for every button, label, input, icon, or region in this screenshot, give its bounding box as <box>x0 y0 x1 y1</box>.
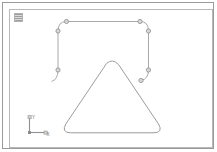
rounded-triangle-spline[interactable] <box>64 61 160 133</box>
window-outer-frame: Y X <box>2 2 214 149</box>
axis-origin-marker <box>28 131 31 134</box>
x-axis-label: X <box>47 132 50 137</box>
y-axis-label: Y <box>32 115 35 120</box>
spline-vertex-marker[interactable] <box>139 78 143 82</box>
application-window: Y X <box>0 0 217 152</box>
spline-vertex-marker[interactable] <box>146 68 150 72</box>
spline-vertex-marker[interactable] <box>56 68 60 72</box>
world-axis-tripod: Y X <box>26 114 52 138</box>
modeling-viewport[interactable]: Y X <box>9 9 213 148</box>
spline-vertex-marker[interactable] <box>56 29 60 33</box>
spline-vertex-marker[interactable] <box>64 19 68 23</box>
spline-vertex-marker[interactable] <box>146 29 150 33</box>
rounded-rectangle-spline[interactable] <box>67 22 149 81</box>
spline-vertex-marker[interactable] <box>138 19 142 23</box>
y-axis-tip-marker <box>28 116 31 119</box>
